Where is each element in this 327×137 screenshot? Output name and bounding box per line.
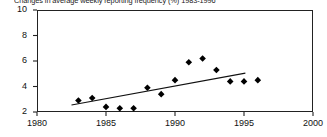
y-tick-label: 8 [5, 30, 27, 40]
data-point-marker [130, 105, 137, 112]
data-point-marker [144, 84, 151, 91]
x-tick-label: 2000 [293, 118, 327, 128]
y-tick-label: 10 [5, 4, 27, 14]
data-point-marker [241, 78, 248, 85]
y-tick-label: 4 [5, 81, 27, 91]
data-point-marker [117, 105, 124, 112]
y-tick-label: 6 [5, 55, 27, 65]
x-axis-ticks [37, 112, 313, 116]
data-point-marker [199, 55, 206, 62]
x-tick-label: 1995 [224, 118, 264, 128]
data-point-marker [227, 78, 234, 85]
data-point-marker [213, 67, 220, 74]
x-tick-label: 1990 [155, 118, 195, 128]
data-point-marker [255, 77, 262, 84]
data-point-markers [75, 55, 261, 111]
plot-canvas [0, 0, 327, 137]
data-point-marker [186, 59, 193, 66]
y-tick-label: 2 [5, 106, 27, 116]
trend-line [72, 73, 246, 105]
x-tick-label: 1985 [86, 118, 126, 128]
data-point-marker [172, 77, 179, 84]
data-point-marker [103, 104, 110, 111]
chart-figure: Changes in average weekly reporting freq… [0, 0, 327, 137]
x-tick-label: 1980 [17, 118, 57, 128]
data-point-marker [158, 91, 165, 98]
y-axis-ticks [33, 10, 37, 112]
